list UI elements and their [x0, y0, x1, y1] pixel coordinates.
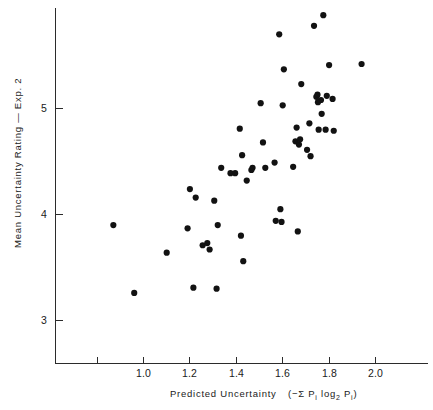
- data-point: [329, 96, 335, 102]
- data-point: [276, 31, 282, 37]
- data-point: [295, 228, 301, 234]
- data-point: [239, 152, 245, 158]
- data-point: [304, 147, 310, 153]
- data-point: [273, 218, 279, 224]
- data-point: [314, 92, 320, 98]
- x-axis-tick-labels: 1.0 1.2 1.4 1.6 1.8 2.0: [136, 367, 383, 379]
- data-point: [323, 127, 329, 133]
- x-tick-label-1-6: 1.6: [275, 367, 290, 379]
- data-point: [193, 194, 199, 200]
- y-tick-label-4: 4: [41, 208, 47, 220]
- x-tick-label-1-8: 1.8: [322, 367, 337, 379]
- data-point: [290, 164, 296, 170]
- scatter-plot-svg: 5 4 3 1.0 1.2 1.4 1.6 1.8 2.0 Predicted …: [0, 0, 433, 410]
- data-point: [240, 258, 246, 264]
- data-point: [131, 290, 137, 296]
- x-formula-open: (−Σ P: [288, 388, 315, 399]
- x-axis-formula: (−Σ Pi log2 Pi): [288, 388, 357, 401]
- data-point: [184, 225, 190, 231]
- data-point: [238, 233, 244, 239]
- x-axis-title-text: Predicted Uncertainty: [170, 388, 277, 399]
- data-point: [280, 102, 286, 108]
- y-axis-ticks: [55, 109, 63, 321]
- data-point: [294, 124, 300, 130]
- data-point: [271, 159, 277, 165]
- data-point: [311, 23, 317, 29]
- data-points-layer: [110, 12, 364, 296]
- x-formula-p2: P: [341, 388, 351, 399]
- y-axis-title: Mean Uncertainty Rating — Exp. 2: [12, 78, 23, 248]
- data-point: [358, 61, 364, 67]
- data-point: [204, 240, 210, 246]
- data-point: [110, 222, 116, 228]
- y-tick-label-5: 5: [41, 102, 47, 114]
- scatter-plot-figure: 5 4 3 1.0 1.2 1.4 1.6 1.8 2.0 Predicted …: [0, 0, 433, 410]
- data-point: [320, 12, 326, 18]
- x-tick-label-1-0: 1.0: [136, 367, 151, 379]
- data-point: [207, 246, 213, 252]
- x-formula-mid: log: [318, 388, 336, 399]
- data-point: [316, 127, 322, 133]
- x-axis-title: Predicted Uncertainty: [170, 388, 277, 399]
- data-point: [190, 285, 196, 291]
- data-point: [307, 153, 313, 159]
- y-axis-tick-labels: 5 4 3: [41, 102, 47, 326]
- data-point: [244, 177, 250, 183]
- data-point: [232, 170, 238, 176]
- data-point: [277, 206, 283, 212]
- y-tick-label-3: 3: [41, 314, 47, 326]
- data-point: [306, 120, 312, 126]
- data-point: [164, 250, 170, 256]
- data-point: [298, 81, 304, 87]
- data-point: [215, 222, 221, 228]
- data-point: [324, 93, 330, 99]
- data-point: [297, 136, 303, 142]
- data-point: [331, 128, 337, 134]
- data-point: [326, 62, 332, 68]
- data-point: [296, 141, 302, 147]
- data-point: [258, 100, 264, 106]
- data-point: [213, 286, 219, 292]
- x-tick-label-1-4: 1.4: [229, 367, 244, 379]
- data-point: [187, 186, 193, 192]
- data-point: [211, 198, 217, 204]
- data-point: [319, 111, 325, 117]
- data-point: [281, 66, 287, 72]
- x-formula-close: ): [353, 388, 357, 399]
- x-tick-label-1-2: 1.2: [182, 367, 197, 379]
- data-point: [278, 219, 284, 225]
- data-point: [218, 165, 224, 171]
- data-point: [237, 126, 243, 132]
- data-point: [262, 165, 268, 171]
- data-point: [318, 97, 324, 103]
- x-tick-label-2-0: 2.0: [368, 367, 383, 379]
- data-point: [260, 139, 266, 145]
- data-point: [249, 165, 255, 171]
